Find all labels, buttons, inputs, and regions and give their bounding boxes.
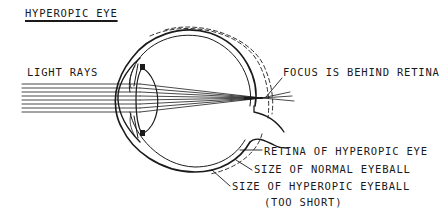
diagram-title: HYPEROPIC EYE <box>25 8 118 19</box>
hyperopic-size-label: SIZE OF HYPEROPIC EYEBALL <box>232 181 410 192</box>
normal-eyeball-outline-outer <box>165 27 273 114</box>
normal-size-leader <box>236 160 252 170</box>
ciliary-body-bottom <box>140 130 145 136</box>
light-rays-label: LIGHT RAYS <box>27 67 98 78</box>
lens <box>136 68 158 134</box>
hyperopic-size-leader <box>212 170 230 186</box>
focus-label: FOCUS IS BEHIND RETINA <box>283 67 440 78</box>
too-short-label: (TOO SHORT) <box>264 197 342 208</box>
normal-size-label: SIZE OF NORMAL EYEBALL <box>254 164 411 175</box>
retina-label: RETINA OF HYPEROPIC EYE <box>264 146 428 157</box>
ciliary-body-top <box>140 64 145 70</box>
